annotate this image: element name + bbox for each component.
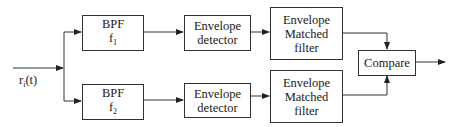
bpf-f1-title: BPF [102, 17, 124, 31]
bpf-f2-freq-sub: 2 [113, 107, 117, 116]
matched-filter-1-line1: Envelope [283, 13, 330, 27]
envelope-detector-1-block: Envelope detector [184, 15, 251, 51]
bpf-f2-block: BPF f2 [82, 84, 144, 120]
bpf-f1-block: BPF f1 [82, 15, 144, 51]
matched-filter-2-line2: Matched [285, 90, 329, 104]
bpf-f1-freq: f1 [109, 31, 117, 50]
envelope-detector-1-line2: detector [197, 33, 237, 47]
matched-filter-2-line3: filter [294, 104, 318, 118]
input-label-suffix: (t) [25, 73, 37, 87]
matched-filter-1-block: Envelope Matched filter [270, 7, 343, 60]
bpf-f2-freq: f2 [109, 100, 117, 119]
bpf-f2-title: BPF [102, 86, 124, 100]
matched-filter-2-block: Envelope Matched filter [270, 70, 343, 123]
compare-label: Compare [364, 56, 410, 70]
matched-filter-2-line1: Envelope [283, 76, 330, 90]
envelope-detector-2-line2: detector [197, 101, 237, 115]
matched-filter-1-line3: filter [294, 41, 318, 55]
bpf-f1-freq-sub: 1 [113, 38, 117, 47]
matched-filter-1-line2: Matched [285, 27, 329, 41]
envelope-detector-2-line1: Envelope [194, 87, 241, 101]
input-signal-label: ri(t) [19, 73, 37, 89]
envelope-detector-1-line1: Envelope [194, 19, 241, 33]
envelope-detector-2-block: Envelope detector [184, 83, 251, 118]
compare-block: Compare [358, 50, 416, 76]
